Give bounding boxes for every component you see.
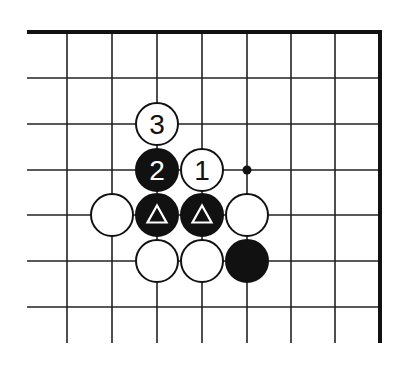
white-stone (181, 240, 223, 282)
go-board: 321 (0, 0, 412, 373)
point-marker-dot (243, 166, 252, 175)
white-stone (91, 194, 133, 236)
black-stone (226, 240, 268, 282)
white-stone (226, 194, 268, 236)
move-number-label: 3 (149, 109, 165, 140)
move-number-label: 2 (149, 155, 165, 186)
black-stone (181, 194, 223, 236)
move-number-label: 1 (194, 155, 210, 186)
black-stone (136, 194, 178, 236)
white-stone (136, 240, 178, 282)
